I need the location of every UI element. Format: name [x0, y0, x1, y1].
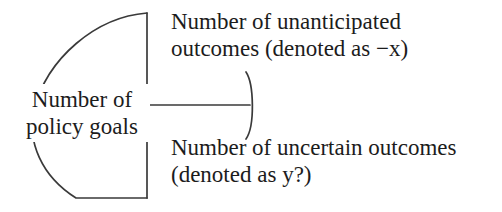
branch-label-top: Number of unanticipated outcomes (denote… [171, 8, 408, 62]
branch-label-top-line-1: Number of unanticipated [171, 8, 408, 35]
group-label-line-2: policy goals [16, 113, 148, 140]
branch-label-bottom-line-2: (denoted as y?) [171, 161, 457, 188]
branch-label-bottom: Number of uncertain outcomes (denoted as… [171, 134, 457, 188]
group-label-line-1: Number of [16, 86, 148, 113]
branch-label-bottom-line-1: Number of uncertain outcomes [171, 134, 457, 161]
group-label: Number of policy goals [14, 84, 150, 142]
branch-label-top-line-2: outcomes (denoted as −x) [171, 35, 408, 62]
brace-diagram: Number of policy goals Number of unantic… [0, 0, 502, 212]
